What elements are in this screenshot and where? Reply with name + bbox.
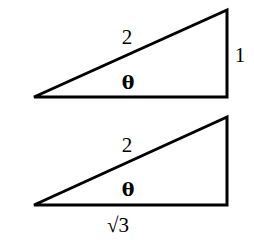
angle-label-top: θ xyxy=(122,71,135,93)
adjacent-label-bottom: √3 xyxy=(107,213,129,237)
angle-label-bottom: θ xyxy=(122,178,135,200)
hypotenuse-label-top: 2 xyxy=(122,25,133,49)
triangle-top: 2 1 θ xyxy=(34,10,245,97)
opposite-label-top: 1 xyxy=(235,43,246,67)
diagram-canvas: 2 1 θ 2 θ √3 xyxy=(0,0,254,240)
hypotenuse-label-bottom: 2 xyxy=(122,133,133,157)
triangle-bottom: 2 θ √3 xyxy=(34,117,227,237)
